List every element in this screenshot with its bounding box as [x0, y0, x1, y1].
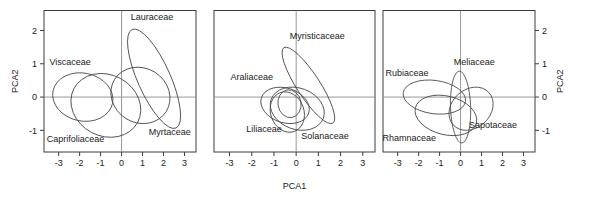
x-tick-label: -3	[226, 158, 234, 168]
x-tick-label: 1	[316, 158, 321, 168]
x-tick-label: 2	[161, 158, 166, 168]
ellipse-araliaceae	[256, 81, 314, 129]
panel-1: -3-2-10123210-1PCA2LauraceaeMyrtaceaeVis…	[10, 11, 196, 169]
y-tick-label: 1	[542, 59, 547, 69]
y-tick-label: -1	[29, 126, 37, 136]
family-label-liliaceae: Liliaceae	[246, 124, 282, 134]
x-tick-label: -2	[76, 158, 84, 168]
pca-figure-svg: -3-2-10123210-1PCA2LauraceaeMyrtaceaeVis…	[0, 0, 589, 200]
x-tick-label: -3	[55, 158, 63, 168]
y-tick-label: 0	[32, 92, 37, 102]
y-tick-label: 0	[542, 92, 547, 102]
x-tick-label: 2	[338, 158, 343, 168]
family-label-solanaceae: Solanaceae	[301, 131, 349, 141]
x-axis-title: PCA1	[283, 181, 307, 191]
family-label-caprifoliaceae: Caprifoliaceae	[47, 134, 105, 144]
y-axis-title-left: PCA2	[10, 69, 20, 93]
panel-3-frame	[383, 11, 535, 153]
panel-3: -3-2-10123210-1PCA2RubiaceaeMeliaceaeSap…	[382, 11, 565, 169]
x-tick-label: 3	[182, 158, 187, 168]
x-tick-label: 0	[458, 158, 463, 168]
ellipse-lauraceae	[117, 23, 191, 135]
y-tick-label: 2	[542, 26, 547, 36]
y-tick-label: 2	[32, 26, 37, 36]
x-tick-label: 3	[521, 158, 526, 168]
family-label-meliaceae: Meliaceae	[454, 57, 495, 67]
y-tick-label: 1	[32, 59, 37, 69]
x-tick-label: -3	[394, 158, 402, 168]
x-tick-label: -1	[270, 158, 278, 168]
family-label-rubiaceae: Rubiaceae	[386, 68, 429, 78]
family-label-sapotaceae: Sapotaceae	[469, 120, 517, 130]
y-axis-title-right: PCA2	[555, 69, 565, 93]
family-label-myrtaceae: Myrtaceae	[149, 127, 191, 137]
x-tick-label: 1	[140, 158, 145, 168]
x-tick-label: -2	[415, 158, 423, 168]
x-tick-label: 3	[360, 158, 365, 168]
family-label-myristicaceae: Myristicaceae	[290, 31, 345, 41]
x-tick-label: -2	[248, 158, 256, 168]
x-tick-label: 1	[479, 158, 484, 168]
x-tick-label: -1	[436, 158, 444, 168]
x-tick-label: -1	[97, 158, 105, 168]
panel-2: -3-2-10123MyristicaceaeAraliaceaeLiliace…	[214, 11, 375, 169]
family-label-viscaceae: Viscaceae	[50, 57, 91, 67]
family-label-lauraceae: Lauraceae	[131, 12, 174, 22]
x-tick-label: 0	[294, 158, 299, 168]
family-label-rhamnaceae: Rhamnaceae	[382, 133, 436, 143]
family-label-araliaceae: Araliaceae	[230, 72, 273, 82]
x-tick-label: 2	[500, 158, 505, 168]
x-tick-label: 0	[119, 158, 124, 168]
pca-figure: -3-2-10123210-1PCA2LauraceaeMyrtaceaeVis…	[0, 0, 589, 200]
y-tick-label: -1	[542, 126, 550, 136]
